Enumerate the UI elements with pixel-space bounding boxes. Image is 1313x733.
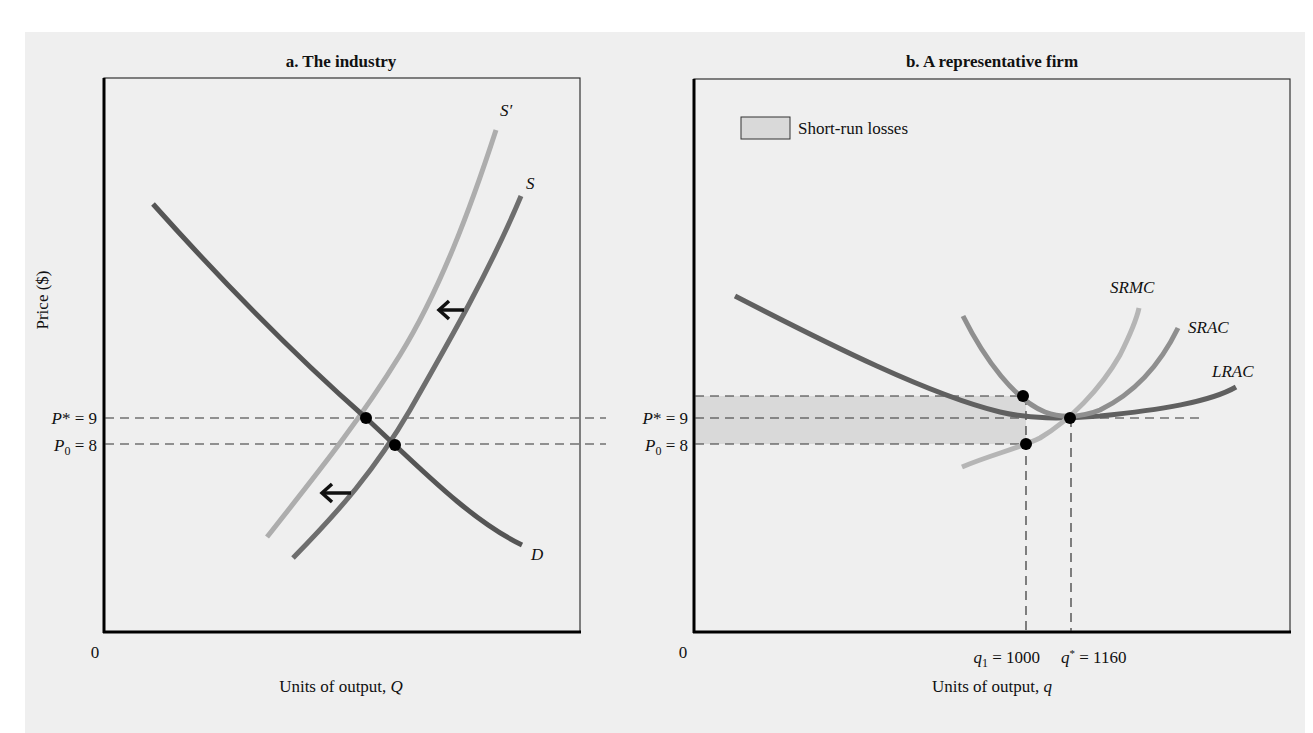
- figure-svg: a. The industry Price ($) P* = 9 P0 = 8 …: [0, 0, 1313, 733]
- equilibrium-point-initial: [389, 439, 401, 451]
- panel-a-title: a. The industry: [286, 52, 397, 71]
- panel-b-title: b. A representative firm: [906, 52, 1078, 71]
- supply-shifted-label: S′: [500, 101, 513, 120]
- panel-a-frame: [104, 78, 580, 632]
- equilibrium-point-new: [360, 412, 372, 424]
- panel-b-pstar-label: P* = 9: [642, 409, 688, 428]
- srmc-label: SRMC: [1110, 278, 1155, 297]
- supply-label: S: [526, 174, 535, 193]
- qstar-label: q* = 1160: [1061, 647, 1126, 667]
- q1-label: q1 = 1000: [973, 648, 1040, 670]
- lrac-label: LRAC: [1211, 362, 1254, 381]
- panel-a-origin: 0: [91, 643, 100, 662]
- panel-b-firm: b. A representative firm Short-run losse…: [642, 52, 1291, 696]
- panel-a-p0-label: P0 = 8: [53, 436, 97, 458]
- panel-b-origin: 0: [679, 643, 688, 662]
- panel-a-xlabel: Units of output, Q: [279, 677, 403, 696]
- demand-label: D: [530, 545, 544, 564]
- panel-b-xlabel: Units of output, q: [932, 677, 1052, 696]
- panel-b-frame: [694, 79, 1290, 632]
- srac-label: SRAC: [1188, 318, 1229, 337]
- panel-a-pstar-label: P* = 9: [51, 409, 97, 428]
- srac-point-q1: [1017, 390, 1029, 402]
- supply-shifted-curve: [267, 130, 496, 537]
- panel-b-p0-label: P0 = 8: [644, 436, 688, 458]
- price-point-q1: [1020, 438, 1032, 450]
- panel-a-ylabel: Price ($): [33, 270, 52, 329]
- legend-swatch: [741, 117, 790, 139]
- legend-label: Short-run losses: [798, 119, 908, 138]
- supply-curve: [293, 196, 521, 558]
- panel-a-industry: a. The industry Price ($) P* = 9 P0 = 8 …: [33, 52, 606, 696]
- long-run-equilibrium-point: [1064, 412, 1076, 424]
